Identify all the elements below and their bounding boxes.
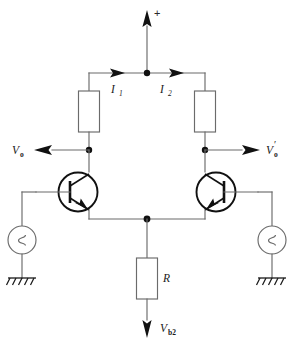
collector-resistor-left	[79, 91, 100, 132]
output-left-branch	[34, 145, 89, 155]
output-label-right: V ′ o	[266, 139, 278, 159]
npn-transistor-right	[197, 173, 259, 220]
top-rail	[89, 69, 205, 78]
npn-transistor-left	[36, 173, 98, 220]
tail-resistor	[137, 258, 158, 299]
ground-right	[257, 278, 287, 285]
output-label-left-sub: o	[20, 150, 24, 159]
current-label-i1: I 1	[110, 83, 123, 98]
ac-source-right-branch	[257, 192, 287, 285]
ground-right-hatch-3	[269, 278, 273, 285]
bias-voltage-label-sub: b2	[168, 328, 176, 337]
output-left-arrow-icon	[34, 145, 52, 155]
ac-source-left	[8, 226, 36, 254]
current-label-i2-text: I	[159, 83, 165, 95]
ground-right-hatch-4	[275, 278, 279, 285]
ground-left	[7, 278, 37, 285]
ground-left-hatch-2	[13, 278, 17, 285]
supply-branch	[142, 10, 151, 73]
supply-rail-node-dot	[144, 70, 150, 76]
tail-resistor-branch	[137, 219, 158, 338]
collector-resistor-right	[195, 91, 216, 132]
tail-resistor-label: R	[162, 272, 170, 284]
output-label-right-prime: ′	[274, 139, 276, 150]
circuit-diagram: I 1 I 2 V o	[0, 0, 294, 351]
output-right-branch	[205, 145, 260, 155]
output-label-left: V o	[12, 144, 24, 159]
ac-source-right	[258, 226, 286, 254]
ground-left-hatch-3	[19, 278, 23, 285]
schematic-canvas: I 1 I 2 V o	[0, 0, 294, 351]
current-label-i2: I 2	[159, 83, 172, 98]
bias-arrow-icon	[142, 320, 151, 338]
current-label-i1-text: I	[110, 83, 116, 95]
left-collector-branch	[79, 73, 100, 172]
current-label-i2-sub: 2	[168, 89, 172, 98]
ground-left-hatch-5	[31, 278, 35, 285]
right-collector-branch	[195, 73, 216, 172]
ground-left-hatch-4	[25, 278, 29, 285]
ground-right-hatch-1	[257, 278, 261, 285]
output-right-arrow-icon	[242, 145, 260, 155]
supply-arrow-icon	[142, 10, 151, 27]
supply-plus-label: +	[154, 7, 160, 19]
ac-source-left-branch	[7, 192, 37, 285]
bias-voltage-label: V b2	[160, 322, 176, 337]
current-label-i1-sub: 1	[119, 89, 123, 98]
output-label-right-sub: o	[274, 150, 278, 159]
ground-right-hatch-5	[281, 278, 285, 285]
ground-left-hatch-1	[7, 278, 11, 285]
ground-right-hatch-2	[263, 278, 267, 285]
